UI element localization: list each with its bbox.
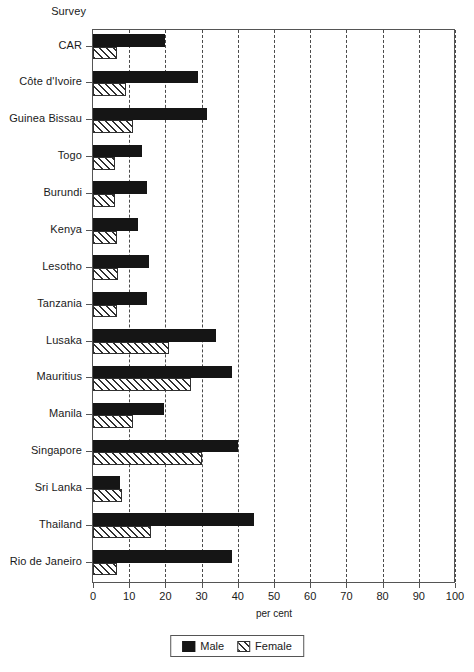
x-tick-label-100: 100 — [435, 590, 474, 602]
category-tick — [86, 193, 93, 194]
category-tick — [86, 267, 93, 268]
category-tick — [86, 377, 93, 378]
legend-entry-male: Male — [182, 640, 224, 652]
category-label: Rio de Janeiro — [0, 555, 82, 567]
category-label: Thailand — [0, 518, 82, 530]
plot-area — [93, 29, 455, 582]
category-tick — [86, 46, 93, 47]
gridline-50 — [274, 30, 275, 582]
gridline-100 — [455, 30, 456, 582]
bar-female — [93, 489, 122, 502]
category-label: Tanzania — [0, 297, 82, 309]
category-tick — [86, 156, 93, 157]
category-label: Singapore — [0, 444, 82, 456]
bar-male — [93, 550, 232, 563]
category-label: Lesotho — [0, 260, 82, 272]
category-tick — [86, 119, 93, 120]
bar-male — [93, 181, 147, 194]
category-label: Sri Lanka — [0, 481, 82, 493]
bar-female — [93, 415, 133, 428]
x-tick-label-80: 80 — [363, 590, 403, 602]
legend-entry-female: Female — [237, 640, 292, 652]
x-tick-label-20: 20 — [145, 590, 185, 602]
gridline-40 — [238, 30, 239, 582]
chart-legend: Male Female — [170, 635, 304, 657]
bar-male — [93, 440, 238, 453]
bar-male — [93, 476, 120, 489]
bar-male — [93, 255, 149, 268]
x-tick-label-40: 40 — [218, 590, 258, 602]
x-tick-label-30: 30 — [182, 590, 222, 602]
x-tick-0 — [93, 583, 94, 588]
x-tick-90 — [419, 583, 420, 588]
x-tick-60 — [310, 583, 311, 588]
category-tick — [86, 414, 93, 415]
y-axis-title: Survey — [0, 5, 86, 17]
category-label: Mauritius — [0, 370, 82, 382]
bar-male — [93, 71, 198, 84]
bar-female — [93, 47, 117, 60]
bar-male — [93, 513, 254, 526]
bar-female — [93, 194, 115, 207]
bar-female — [93, 342, 169, 355]
category-tick — [86, 230, 93, 231]
x-tick-label-0: 0 — [73, 590, 113, 602]
bar-male — [93, 366, 232, 379]
bar-male — [93, 292, 147, 305]
bar-female — [93, 378, 191, 391]
x-tick-label-90: 90 — [399, 590, 439, 602]
x-tick-label-60: 60 — [290, 590, 330, 602]
category-tick — [86, 451, 93, 452]
category-tick — [86, 304, 93, 305]
x-tick-100 — [455, 583, 456, 588]
plot-inner — [93, 30, 454, 582]
bar-female — [93, 157, 115, 170]
x-tick-label-10: 10 — [109, 590, 149, 602]
category-label: Lusaka — [0, 334, 82, 346]
x-tick-label-70: 70 — [326, 590, 366, 602]
bar-female — [93, 83, 126, 96]
bar-male — [93, 34, 165, 47]
x-tick-80 — [383, 583, 384, 588]
bar-female — [93, 268, 118, 281]
category-label: Kenya — [0, 223, 82, 235]
bar-male — [93, 108, 207, 121]
bar-male — [93, 145, 142, 158]
x-tick-50 — [274, 583, 275, 588]
gridline-90 — [419, 30, 420, 582]
gridline-60 — [310, 30, 311, 582]
category-label: Guinea Bissau — [0, 112, 82, 124]
bar-female — [93, 452, 202, 465]
category-label: CAR — [0, 39, 82, 51]
gridline-80 — [383, 30, 384, 582]
category-label: Manila — [0, 407, 82, 419]
category-tick — [86, 525, 93, 526]
category-label: Togo — [0, 149, 82, 161]
x-tick-70 — [346, 583, 347, 588]
gridline-70 — [346, 30, 347, 582]
bar-female — [93, 231, 117, 244]
category-tick — [86, 488, 93, 489]
bar-chart: Survey per cent Male Female 010203040506… — [0, 0, 474, 672]
x-tick-label-50: 50 — [254, 590, 294, 602]
legend-label-female: Female — [255, 640, 292, 652]
legend-swatch-male-icon — [182, 641, 195, 652]
bar-female — [93, 305, 117, 318]
x-tick-10 — [129, 583, 130, 588]
category-label: Côte d'Ivoire — [0, 75, 82, 87]
x-axis-label: per cent — [93, 608, 455, 619]
x-tick-20 — [165, 583, 166, 588]
bar-female — [93, 563, 117, 576]
legend-swatch-female-icon — [237, 641, 250, 652]
x-tick-30 — [202, 583, 203, 588]
bar-male — [93, 218, 138, 231]
category-tick — [86, 562, 93, 563]
bar-female — [93, 120, 133, 133]
category-label: Burundi — [0, 186, 82, 198]
bar-male — [93, 329, 216, 342]
bar-female — [93, 526, 151, 539]
category-tick — [86, 341, 93, 342]
legend-label-male: Male — [200, 640, 224, 652]
bar-male — [93, 403, 164, 416]
x-tick-40 — [238, 583, 239, 588]
